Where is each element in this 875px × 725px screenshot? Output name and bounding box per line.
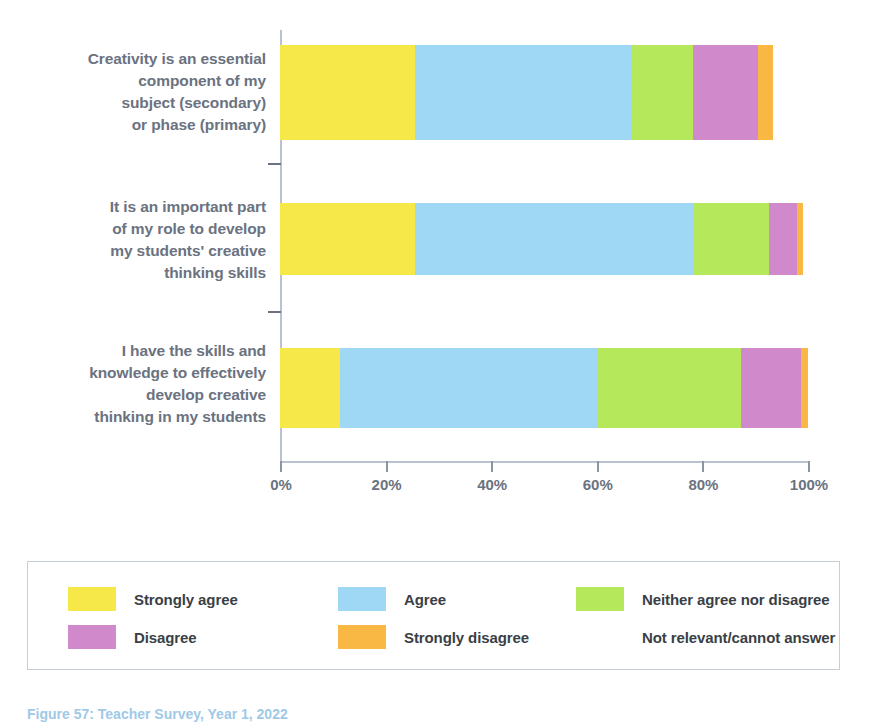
category-label-line: of my role to develop	[18, 218, 266, 240]
x-axis-tick	[808, 461, 810, 472]
legend-label: Not relevant/cannot answer	[642, 629, 835, 646]
figure-caption: Figure 57: Teacher Survey, Year 1, 2022	[27, 706, 288, 725]
category-label-line: I have the skills and	[18, 340, 266, 362]
bar-segment	[340, 348, 598, 428]
bar-segment	[801, 348, 809, 428]
category-label-line: or phase (primary)	[18, 114, 266, 136]
legend-swatch-icon	[576, 625, 624, 649]
legend-item[interactable]: Not relevant/cannot answer	[576, 624, 835, 650]
legend-swatch-icon	[338, 625, 386, 649]
bar-segment	[415, 203, 693, 275]
category-label: I have the skills andknowledge to effect…	[18, 340, 266, 428]
chart-page: Creativity is an essentialcomponent of m…	[0, 0, 875, 725]
bar-segment	[280, 203, 415, 275]
x-axis-tick-label: 40%	[457, 476, 527, 493]
x-axis-tick	[597, 461, 599, 472]
category-label-line: subject (secondary)	[18, 92, 266, 114]
legend-label: Strongly disagree	[404, 629, 529, 646]
category-label: It is an important partof my role to dev…	[18, 196, 266, 284]
legend-item[interactable]: Strongly disagree	[338, 624, 529, 650]
bar-segment	[598, 348, 741, 428]
x-axis-tick-label: 60%	[563, 476, 633, 493]
bar-segment	[280, 45, 415, 140]
category-label-line: knowledge to effectively	[18, 362, 266, 384]
legend-label: Agree	[404, 591, 446, 608]
category-label-line: It is an important part	[18, 196, 266, 218]
x-axis-tick	[280, 461, 282, 472]
x-axis-tick-label: 20%	[352, 476, 422, 493]
bar-segment	[632, 45, 693, 140]
stacked-bar	[280, 45, 808, 140]
bar-segment	[773, 45, 808, 140]
category-label-line: thinking skills	[18, 262, 266, 284]
category-label-line: develop creative	[18, 384, 266, 406]
bar-segment	[415, 45, 632, 140]
y-axis-tick	[268, 163, 281, 165]
legend-item[interactable]: Agree	[338, 586, 446, 612]
x-axis-tick	[386, 461, 388, 472]
category-label-line: thinking in my students	[18, 406, 266, 428]
legend: Strongly agreeAgreeNeither agree nor dis…	[27, 561, 840, 670]
bar-segment	[741, 348, 800, 428]
x-axis-tick-label: 80%	[668, 476, 738, 493]
category-label-line: my students' creative	[18, 240, 266, 262]
legend-label: Neither agree nor disagree	[642, 591, 829, 608]
stacked-bar-chart: Creativity is an essentialcomponent of m…	[0, 0, 875, 540]
x-axis-tick-label: 0%	[246, 476, 316, 493]
legend-label: Disagree	[134, 629, 197, 646]
x-axis-line	[280, 461, 809, 463]
x-axis-tick-label: 100%	[774, 476, 844, 493]
legend-item[interactable]: Neither agree nor disagree	[576, 586, 829, 612]
y-axis-tick	[268, 311, 281, 313]
bar-segment	[803, 203, 808, 275]
legend-swatch-icon	[68, 625, 116, 649]
category-label: Creativity is an essentialcomponent of m…	[18, 48, 266, 136]
x-axis-tick	[491, 461, 493, 472]
legend-item[interactable]: Strongly agree	[68, 586, 238, 612]
legend-swatch-icon	[338, 587, 386, 611]
legend-swatch-icon	[576, 587, 624, 611]
category-label-line: component of my	[18, 70, 266, 92]
legend-grid: Strongly agreeAgreeNeither agree nor dis…	[28, 562, 839, 669]
category-label-line: Creativity is an essential	[18, 48, 266, 70]
stacked-bar	[280, 348, 808, 428]
bar-segment	[758, 45, 773, 140]
bar-segment	[693, 203, 769, 275]
legend-swatch-icon	[68, 587, 116, 611]
bar-segment	[280, 348, 340, 428]
legend-item[interactable]: Disagree	[68, 624, 197, 650]
stacked-bar	[280, 203, 808, 275]
legend-label: Strongly agree	[134, 591, 238, 608]
x-axis-tick	[702, 461, 704, 472]
bar-segment	[693, 45, 758, 140]
bar-segment	[769, 203, 797, 275]
